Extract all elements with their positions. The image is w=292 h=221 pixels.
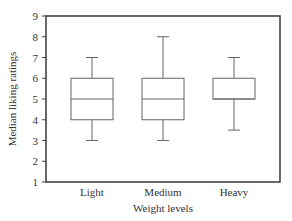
box-plot-chart: 123456789LightMediumHeavy Median liking … xyxy=(0,0,292,221)
y-axis-label: Median liking ratings xyxy=(6,52,18,147)
y-tick-label: 9 xyxy=(33,10,39,22)
y-tick-label: 8 xyxy=(33,31,39,43)
y-tick-label: 2 xyxy=(33,155,39,167)
y-tick-label: 3 xyxy=(33,135,39,147)
y-tick-label: 5 xyxy=(33,93,39,105)
box-heavy xyxy=(213,78,255,99)
x-tick-label: Medium xyxy=(144,186,182,198)
plot-area: 123456789LightMediumHeavy xyxy=(33,10,281,198)
x-tick-label: Heavy xyxy=(220,186,249,198)
y-tick-label: 1 xyxy=(33,176,39,188)
y-tick-label: 4 xyxy=(33,114,39,126)
x-tick-label: Light xyxy=(80,186,104,198)
y-tick-label: 7 xyxy=(33,52,39,64)
x-axis-label: Weight levels xyxy=(133,202,193,214)
y-tick-label: 6 xyxy=(33,72,39,84)
